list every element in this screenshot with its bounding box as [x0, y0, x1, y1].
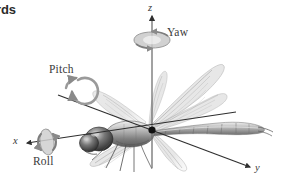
- clipped-heading-fragment: rds: [0, 2, 16, 17]
- x-axis-label: x: [13, 135, 18, 146]
- dragonfly-axes-figure: rds Yaw Pitch Roll z x y: [0, 0, 302, 191]
- yaw-rotation-arrow: [134, 32, 170, 49]
- z-axis-label: z: [148, 2, 152, 13]
- roll-rotation-arrow: [38, 128, 56, 156]
- pitch-label: Pitch: [49, 63, 74, 75]
- yaw-label: Yaw: [167, 26, 188, 38]
- roll-label: Roll: [33, 155, 54, 167]
- y-axis-label: y: [255, 162, 260, 173]
- x-axis-line: [27, 112, 236, 143]
- origin-point: [148, 126, 155, 133]
